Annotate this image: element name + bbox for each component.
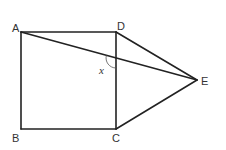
label-c: C [112,132,120,144]
segment-de [116,32,197,80]
label-e: E [201,75,208,87]
geometry-diagram: A D E B C x [0,0,226,150]
label-a: A [12,22,20,34]
segment-ce [116,80,197,129]
segment-ae [21,32,197,80]
label-b: B [12,132,19,144]
angle-label-x: x [98,64,104,76]
label-d: D [117,20,125,32]
